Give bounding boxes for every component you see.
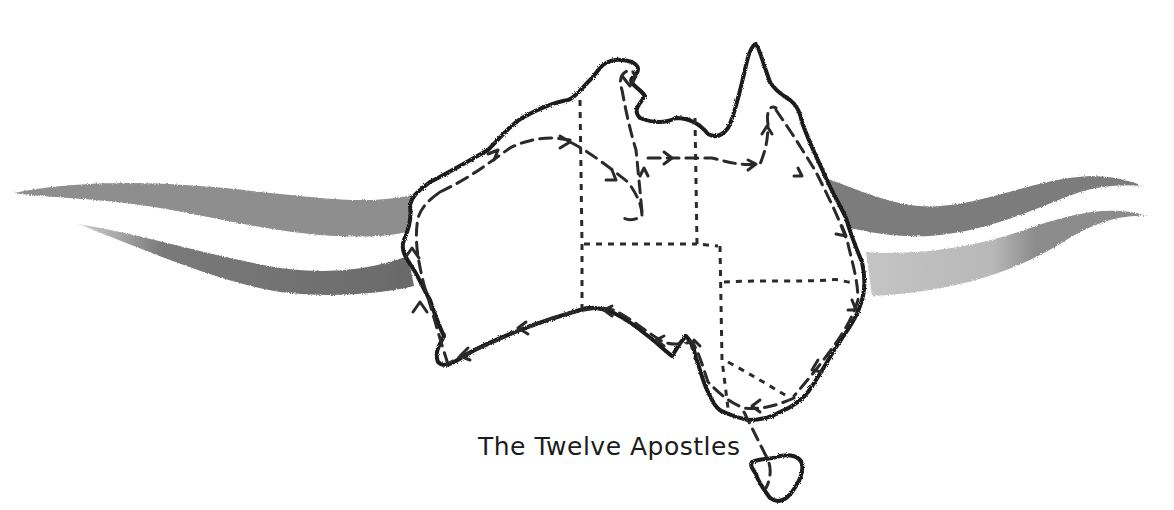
mainland-outline — [403, 44, 864, 420]
arrow-icon — [413, 302, 427, 312]
tasmania-outline — [751, 455, 802, 501]
swoosh-right-upper — [820, 176, 1142, 236]
label-twelve-apostles: The Twelve Apostles — [478, 432, 740, 461]
